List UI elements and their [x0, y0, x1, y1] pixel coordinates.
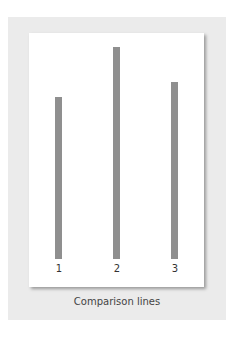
line-label-3: 3 [165, 263, 185, 275]
figure-caption: Comparison lines [8, 295, 226, 308]
line-label-2: 2 [107, 263, 127, 275]
figure-frame: 1 2 3 Comparison lines [8, 17, 226, 320]
comparison-line-2 [113, 47, 120, 259]
comparison-line-3 [171, 82, 178, 259]
line-label-1: 1 [49, 263, 69, 275]
figure-card: 1 2 3 [29, 33, 204, 287]
comparison-line-1 [55, 97, 62, 259]
